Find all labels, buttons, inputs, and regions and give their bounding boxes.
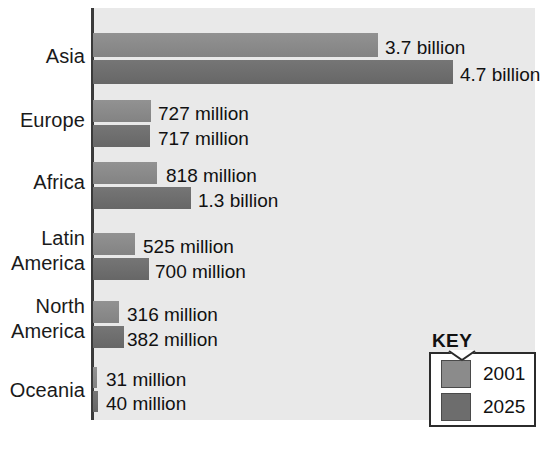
category-label-line1: Latin [0,226,85,251]
bar-texture [93,100,151,122]
bar-value-label-europe-2025: 717 million [158,129,249,148]
bar-value-label-europe-2001: 727 million [158,104,249,123]
bar-asia-2001 [93,33,378,57]
legend-notch-icon [449,350,475,362]
bar-texture [93,367,97,388]
bar-africa-2001 [93,162,157,184]
bar-latin-america-2025 [93,258,149,280]
bar-value-label-africa-2025: 1.3 billion [198,191,278,210]
bar-africa-2025 [93,187,191,209]
category-label-line1: North [0,294,85,319]
category-label-line1: Asia [0,44,85,69]
category-label-line1: Europe [0,108,85,133]
bar-value-label-latin-america-2001: 525 million [143,237,234,256]
legend-swatch-2025-icon [441,393,471,421]
bar-value-label-asia-2025: 4.7 billion [460,65,540,84]
bar-texture [93,125,150,147]
bar-value-label-oceania-2025: 40 million [106,394,186,413]
category-label-europe: Europe [0,108,85,133]
bar-oceania-2001 [93,367,97,388]
category-label-latin-america: Latin America [0,226,85,276]
bar-value-label-oceania-2001: 31 million [106,370,186,389]
bar-texture [93,233,135,255]
bar-texture [93,391,98,412]
category-label-line2: America [0,319,85,344]
category-label-north-america: North America [0,294,85,344]
bar-texture [93,301,119,323]
category-label-asia: Asia [0,44,85,69]
legend-item-2001[interactable]: 2001 [431,360,534,392]
bar-value-label-africa-2001: 818 million [166,166,257,185]
bar-texture [93,162,157,184]
category-label-line1: Africa [0,170,85,195]
bar-texture [93,326,124,348]
bar-texture [93,258,149,280]
bar-value-label-north-america-2025: 382 million [127,330,218,349]
bar-oceania-2025 [93,391,98,412]
category-label-line1: Oceania [0,378,85,403]
bar-europe-2001 [93,100,151,122]
legend-item-2025[interactable]: 2025 [431,393,534,425]
legend-box: 2001 2025 [429,352,536,427]
category-label-oceania: Oceania [0,378,85,403]
category-label-line2: America [0,251,85,276]
legend-swatch-2001-icon [441,360,471,388]
bar-texture [93,187,191,209]
bar-latin-america-2001 [93,233,135,255]
legend-label-2025: 2025 [483,393,525,421]
bar-texture [93,33,378,57]
chart-container: Asia Europe Africa Latin America North A… [0,0,553,462]
bar-texture [93,60,453,84]
bar-north-america-2001 [93,301,119,323]
category-label-africa: Africa [0,170,85,195]
bar-north-america-2025 [93,326,124,348]
bar-asia-2025 [93,60,453,84]
bar-europe-2025 [93,125,150,147]
legend-label-2001: 2001 [483,360,525,388]
bar-value-label-asia-2001: 3.7 billion [385,38,465,57]
bar-value-label-latin-america-2025: 700 million [155,262,246,281]
legend-title: KEY [432,330,472,352]
bar-value-label-north-america-2001: 316 million [127,305,218,324]
